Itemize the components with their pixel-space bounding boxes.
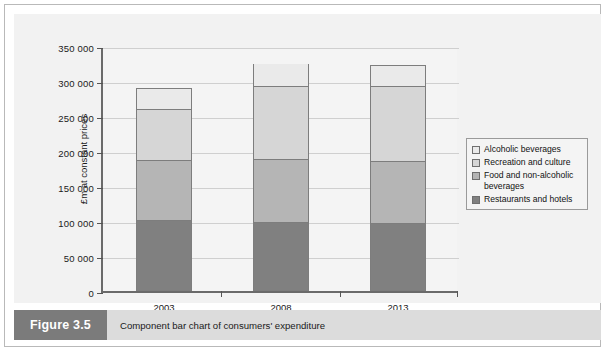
page-frame: £m at constant prices 050 000100 000150 … (4, 4, 601, 347)
y-tick-mark (97, 258, 103, 259)
legend-swatch-icon (472, 159, 480, 167)
y-tick-mark (97, 188, 103, 189)
bar-segment[interactable] (137, 161, 191, 221)
plot-area: 050 000100 000150 000200 000250 000300 0… (101, 48, 457, 293)
bar-group: 2008 (253, 64, 309, 292)
x-tick-mark (457, 291, 458, 297)
bar-group: 2013 (370, 65, 426, 291)
bar-segment[interactable] (371, 224, 425, 290)
stacked-bar[interactable] (253, 64, 309, 292)
legend-item[interactable]: Restaurants and hotels (472, 194, 581, 205)
bar-segment[interactable] (254, 160, 308, 222)
y-tick-mark (97, 83, 103, 84)
y-tick-mark (97, 48, 103, 49)
stacked-bar[interactable] (136, 88, 192, 291)
y-tick-label: 300 000 (58, 78, 94, 89)
y-tick-mark (97, 293, 103, 294)
chart-panel: £m at constant prices 050 000100 000150 … (14, 14, 601, 303)
stacked-bar[interactable] (370, 65, 426, 291)
legend-item-label: Restaurants and hotels (484, 194, 572, 205)
y-tick-label: 50 000 (64, 253, 94, 264)
chart-legend: Alcoholic beveragesRecreation and cultur… (466, 138, 588, 210)
y-tick-label: 250 000 (58, 113, 94, 124)
legend-swatch-icon (472, 196, 480, 204)
x-tick-mark (340, 291, 341, 297)
legend-item[interactable]: Food and non-alcoholic beverages (472, 170, 581, 191)
y-tick-label: 200 000 (58, 148, 94, 159)
figure-root: £m at constant prices 050 000100 000150 … (0, 0, 605, 351)
bar-group: 2003 (136, 88, 192, 291)
bar-segment[interactable] (137, 110, 191, 161)
gridline (103, 48, 459, 49)
legend-swatch-icon (472, 172, 480, 180)
bar-segment[interactable] (371, 87, 425, 162)
caption-strip: Figure 3.5 Component bar chart of consum… (14, 310, 601, 340)
figure-caption: Component bar chart of consumers' expend… (120, 310, 325, 340)
legend-swatch-icon (472, 146, 480, 154)
legend-item[interactable]: Recreation and culture (472, 157, 581, 168)
bar-segment[interactable] (137, 89, 191, 110)
y-tick-mark (97, 118, 103, 119)
plot-wrapper: 050 000100 000150 000200 000250 000300 0… (101, 48, 457, 293)
x-tick-mark (221, 291, 222, 297)
y-tick-mark (97, 223, 103, 224)
bar-segment[interactable] (254, 64, 308, 87)
y-tick-label: 150 000 (58, 183, 94, 194)
figure-number: Figure 3.5 (14, 310, 107, 340)
bar-segment[interactable] (371, 66, 425, 88)
bar-segment[interactable] (254, 87, 308, 160)
y-tick-mark (97, 153, 103, 154)
y-tick-label: 100 000 (58, 218, 94, 229)
legend-item-label: Recreation and culture (484, 157, 570, 168)
bar-segment[interactable] (137, 221, 191, 290)
bar-segment[interactable] (254, 223, 308, 290)
y-tick-label: 0 (89, 288, 94, 299)
legend-item-label: Food and non-alcoholic beverages (484, 170, 581, 191)
y-tick-label: 350 000 (58, 43, 94, 54)
bar-segment[interactable] (371, 162, 425, 224)
legend-item-label: Alcoholic beverages (484, 144, 561, 155)
legend-item[interactable]: Alcoholic beverages (472, 144, 581, 155)
